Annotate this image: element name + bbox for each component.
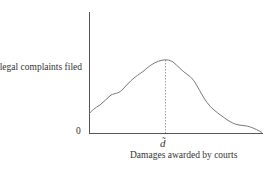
chart-plot (0, 0, 278, 177)
data-curve (89, 60, 262, 133)
